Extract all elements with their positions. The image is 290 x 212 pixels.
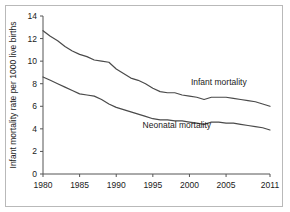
y-tick-label: 12 [28,34,38,44]
x-tick-label: 2011 [261,180,280,190]
x-tick-label: 1995 [143,180,162,190]
y-tick-label: 14 [28,11,38,21]
x-tick-label: 1980 [34,180,53,190]
y-tick-label: 2 [32,146,37,156]
series-line-infant-mortality [43,31,270,107]
x-tick-label: 2005 [217,180,236,190]
y-tick-label: 10 [28,56,38,66]
figure-container: 024681012141980198519901995200020052011I… [0,0,290,212]
y-tick-label: 6 [32,101,37,111]
y-axis-title: Infant mortality rate per 1000 live birt… [8,22,18,169]
y-tick-label: 0 [32,169,37,179]
line-chart: 024681012141980198519901995200020052011I… [0,0,290,212]
x-tick-label: 1985 [70,180,89,190]
series-label-neonatal-mortality: Neonatal mortality [143,120,212,130]
x-tick-label: 1990 [107,180,126,190]
x-tick-label: 2000 [180,180,199,190]
y-tick-label: 4 [32,124,37,134]
series-label-infant-mortality: Infant mortality [191,77,247,87]
y-tick-label: 8 [32,79,37,89]
